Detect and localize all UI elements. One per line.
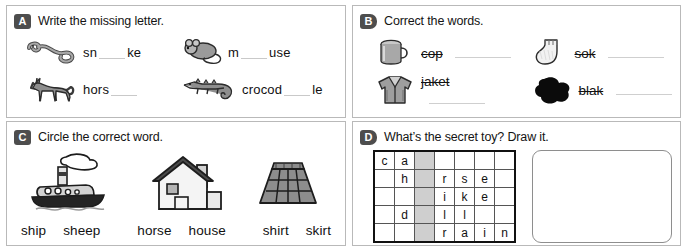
crossword-cell[interactable] [374, 224, 395, 243]
word-row: jaket blak [353, 71, 680, 108]
crossword-cell[interactable]: k [455, 188, 475, 206]
exercise-item-snake[interactable]: sn ke [7, 39, 176, 67]
crossword-cell[interactable]: i [475, 224, 495, 243]
choice-pair-ship: ship sheep [21, 223, 100, 238]
crossword-cell[interactable] [495, 206, 516, 224]
exercise-item-jacket[interactable]: jaket [353, 72, 517, 108]
blot-icon [531, 75, 573, 105]
panel-c-prompt: Circle the correct word. [38, 130, 163, 144]
correction-blank[interactable] [608, 45, 664, 58]
crossword-cell[interactable]: a [395, 151, 415, 170]
panel-c-badge: C [14, 130, 31, 145]
crossword-cell[interactable] [374, 170, 395, 188]
correction-blank[interactable] [455, 45, 511, 58]
sock-icon [531, 37, 569, 69]
crossword-cell[interactable]: n [495, 224, 516, 243]
choice-option[interactable]: skirt [306, 223, 331, 238]
misspelled-word: jaket [421, 74, 450, 89]
crossword-cell[interactable] [435, 151, 455, 170]
house-icon [145, 151, 231, 219]
missing-letter-blank[interactable] [111, 84, 137, 96]
choice-option[interactable]: house [189, 223, 226, 238]
crossword-cell[interactable]: e [475, 170, 495, 188]
panel-d-header: D What’s the secret toy? Draw it. [353, 122, 680, 147]
crossword-cell[interactable]: c [374, 151, 395, 170]
crossword-cell[interactable] [495, 151, 516, 170]
crossword-cell[interactable]: l [435, 206, 455, 224]
crossword-cell[interactable] [495, 170, 516, 188]
crossword-cell-secret[interactable] [415, 170, 435, 188]
misspelled-word: blak [579, 83, 604, 98]
panel-b: B Correct the words. cop [352, 5, 681, 118]
crossword-cell[interactable] [495, 188, 516, 206]
correction-blank[interactable] [429, 91, 485, 104]
crossword-cell[interactable] [475, 206, 495, 224]
crossword-cell-secret[interactable] [415, 224, 435, 243]
crossword-cell-secret[interactable] [415, 206, 435, 224]
panel-b-prompt: Correct the words. [384, 14, 483, 28]
panel-a-badge: A [14, 14, 31, 29]
crossword-row: r a i n [374, 224, 515, 243]
mug-icon [375, 37, 415, 69]
crossword-cell[interactable] [374, 188, 395, 206]
worksheet: A Write the missing letter. sn ke [0, 0, 681, 249]
word-fragment-after: le [312, 82, 323, 97]
crossword-cell[interactable]: l [455, 206, 475, 224]
crossword-cell[interactable]: e [475, 188, 495, 206]
exercise-item-mouse[interactable]: m use [176, 38, 345, 68]
choice-pair-skirt: shirt skirt [263, 223, 331, 238]
exercise-item-blot[interactable]: blak [517, 75, 681, 105]
crossword-cell-secret[interactable] [415, 188, 435, 206]
drawing-box[interactable] [532, 150, 672, 243]
panel-b-badge: B [360, 14, 377, 29]
panel-d-badge: D [360, 130, 377, 145]
horse-icon [25, 75, 83, 105]
crossword-cell[interactable]: r [435, 170, 455, 188]
missing-letter-blank[interactable] [99, 47, 125, 59]
choice-option[interactable]: sheep [63, 223, 100, 238]
panel-c: C Circle the correct word. [6, 121, 346, 246]
panel-a-prompt: Write the missing letter. [38, 14, 164, 28]
crossword-cell[interactable] [395, 188, 415, 206]
missing-letter-blank[interactable] [284, 84, 310, 96]
panel-b-header: B Correct the words. [353, 6, 680, 31]
crossword-grid[interactable]: c a h r s e [373, 150, 516, 243]
crossword-cell-secret[interactable] [415, 151, 435, 170]
crossword-row: d l l [374, 206, 515, 224]
snake-icon [25, 39, 83, 67]
ship-icon [26, 151, 126, 219]
panel-a: A Write the missing letter. sn ke [6, 5, 346, 118]
word-row: sn ke m [7, 34, 345, 71]
exercise-item-sock[interactable]: sok [517, 37, 681, 69]
choice-option[interactable]: ship [21, 223, 46, 238]
crossword-cell[interactable] [395, 224, 415, 243]
crossword-cell[interactable]: i [435, 188, 455, 206]
crossword-cell[interactable] [374, 206, 395, 224]
exercise-item-mug[interactable]: cop [353, 37, 517, 69]
crossword-row: i k e [374, 188, 515, 206]
panel-a-items: sn ke m [7, 31, 345, 108]
word-fragment-before: crocod [242, 82, 282, 97]
word-row: cop sok [353, 34, 680, 71]
crossword-cell[interactable]: a [455, 224, 475, 243]
panel-d-body: c a h r s e [353, 147, 680, 243]
crossword-cell[interactable] [455, 151, 475, 170]
crossword-cell[interactable] [475, 151, 495, 170]
panel-d: D What’s the secret toy? Draw it. c a [352, 121, 681, 246]
word-fragment-after: use [269, 45, 291, 60]
misspelled-word-wrapper: sok [575, 44, 664, 62]
choice-option[interactable]: horse [137, 223, 171, 238]
exercise-item-crocodile[interactable]: crocod le [176, 76, 345, 104]
crossword-cell[interactable]: d [395, 206, 415, 224]
correction-blank[interactable] [616, 82, 672, 95]
misspelled-word-wrapper: jaket [421, 72, 517, 108]
misspelled-word: cop [421, 46, 443, 61]
missing-letter-blank[interactable] [241, 47, 267, 59]
crossword-cell[interactable]: r [435, 224, 455, 243]
choice-option[interactable]: shirt [263, 223, 289, 238]
mouse-icon [180, 38, 228, 68]
misspelled-word-wrapper: cop [421, 44, 511, 62]
crossword-cell[interactable]: s [455, 170, 475, 188]
exercise-item-horse[interactable]: hors [7, 75, 176, 105]
crossword-cell[interactable]: h [395, 170, 415, 188]
